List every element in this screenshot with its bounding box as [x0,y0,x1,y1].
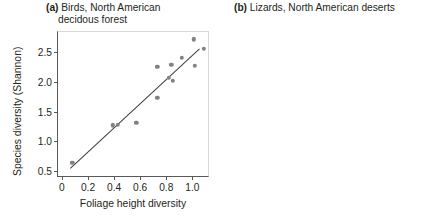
x-tick-label: 0.2 [81,182,95,193]
x-tick [166,176,167,180]
data-point [202,46,206,50]
y-tick [54,82,58,83]
panel-b-title: (b) Lizards, North American deserts [218,2,437,14]
y-tick [54,112,58,113]
y-tick-label: 0.5 [38,166,52,177]
x-tick-label: 0.6 [133,182,147,193]
x-tick [62,176,63,180]
data-point [180,55,184,59]
x-tick [88,176,89,180]
y-tick-label: 1.5 [38,106,52,117]
y-tick [54,141,58,142]
x-tick-label: 0 [59,182,65,193]
data-point [191,37,195,41]
panel-a-title-line1: Birds, North American [61,2,160,13]
data-point [116,123,120,127]
panel-a-title: (a) Birds, North American decidous fores… [0,2,218,26]
x-axis-title-a: Foliage height diversity [80,198,186,209]
panel-a-title-line2: decidous forest [46,14,218,26]
x-tick [140,176,141,180]
panel-a-letter: (a) [46,2,58,13]
y-tick [54,171,58,172]
regression-line [70,48,200,168]
data-point [171,79,175,83]
y-tick-label: 1.0 [38,136,52,147]
data-point [155,65,159,69]
data-point [134,121,138,125]
x-tick [114,176,115,180]
panel-b-letter: (b) [234,2,247,13]
x-tick [192,176,193,180]
x-tick-label: 0.4 [107,182,121,193]
x-tick-label: 1.0 [185,182,199,193]
y-tick-label: 2.5 [38,47,52,58]
data-point [169,63,173,67]
plot-area-a: 0.51.01.52.02.500.20.40.60.81.0 [57,31,209,177]
panel-a: (a) Birds, North American decidous fores… [0,0,218,217]
y-axis-title-a: Species diversity (Shannon) [12,47,23,176]
y-tick [54,52,58,53]
x-tick-label: 0.8 [159,182,173,193]
y-tick-label: 2.0 [38,76,52,87]
panel-b-title-line1: Lizards, North American deserts [250,2,395,13]
panel-b: (b) Lizards, North American deserts 5678… [218,0,437,217]
data-point [155,96,159,100]
data-point [193,64,197,68]
